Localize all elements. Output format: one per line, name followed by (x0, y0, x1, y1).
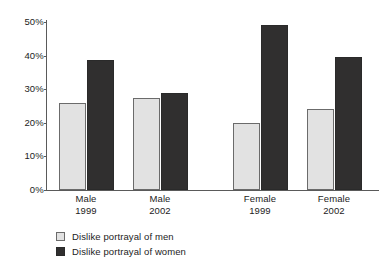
category-group-name: Female (318, 193, 350, 204)
category-label-male-1999: Male1999 (46, 193, 126, 217)
bar-female-1999-series1 (233, 123, 260, 190)
bar-female-2002-series2 (335, 57, 362, 190)
bar-male-2002-series2 (161, 93, 188, 190)
category-group-name: Male (150, 193, 171, 204)
bar-male-2002-series1 (133, 98, 160, 190)
category-label-female-1999: Female1999 (220, 193, 300, 217)
category-year: 2002 (120, 205, 200, 217)
chart-legend: Dislike portrayal of menDislike portraya… (56, 229, 356, 259)
bar-female-2002-series1 (307, 109, 334, 190)
legend-label: Dislike portrayal of men (72, 231, 174, 242)
category-year: 1999 (46, 205, 126, 217)
bars-layer (0, 0, 391, 200)
legend-item-1: Dislike portrayal of men (56, 229, 356, 244)
x-axis-category-labels: Male1999Male2002Female1999Female2002 (0, 193, 391, 227)
category-group-name: Male (76, 193, 97, 204)
plot-area: 0%10%20%30%40%50% (0, 0, 391, 200)
category-year: 2002 (294, 205, 374, 217)
legend-swatch-dark (56, 247, 65, 256)
legend-label: Dislike portrayal of women (72, 246, 186, 257)
category-group-name: Female (244, 193, 276, 204)
legend-swatch-light (56, 232, 65, 241)
bar-female-1999-series2 (261, 25, 288, 190)
bar-chart: 0%10%20%30%40%50% Male1999Male2002Female… (0, 0, 391, 267)
legend-item-2: Dislike portrayal of women (56, 244, 356, 259)
category-label-male-2002: Male2002 (120, 193, 200, 217)
bar-male-1999-series2 (87, 60, 114, 190)
bar-male-1999-series1 (59, 103, 86, 190)
category-year: 1999 (220, 205, 300, 217)
category-label-female-2002: Female2002 (294, 193, 374, 217)
